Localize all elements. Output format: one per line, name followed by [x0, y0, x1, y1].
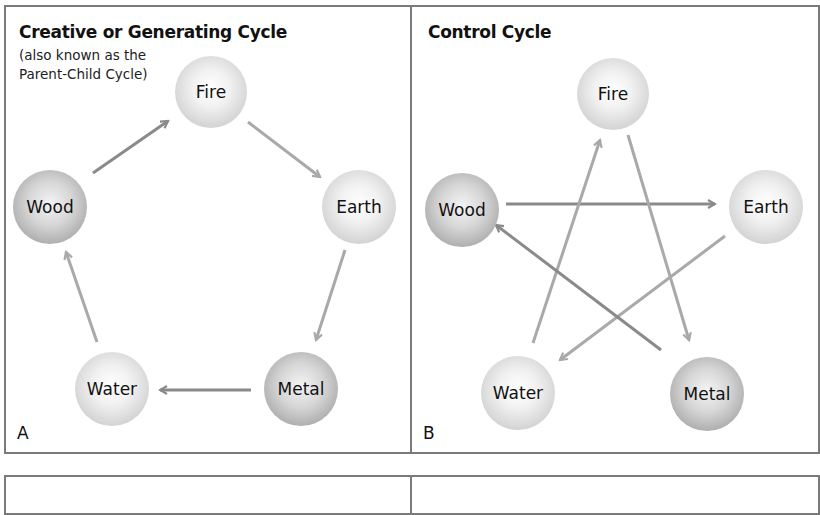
- node-water-b: Water: [481, 356, 555, 430]
- arrow-water-to-fire: [533, 140, 600, 343]
- node-label: Fire: [598, 84, 628, 104]
- node-label: Water: [493, 383, 543, 403]
- node-water-a: Water: [75, 352, 149, 426]
- arrow-earth-to-metal: [316, 250, 345, 340]
- node-label: Water: [87, 379, 137, 399]
- panel-a-arrows: [66, 121, 345, 390]
- node-metal-b: Metal: [670, 357, 744, 431]
- node-label: Earth: [743, 197, 789, 217]
- node-label: Earth: [336, 197, 382, 217]
- node-label: Wood: [26, 197, 73, 217]
- arrow-earth-to-water: [560, 236, 725, 360]
- node-wood-b: Wood: [425, 173, 499, 247]
- node-fire-a: Fire: [175, 56, 247, 128]
- node-earth-a: Earth: [322, 170, 396, 244]
- node-label: Wood: [438, 200, 485, 220]
- node-label: Metal: [278, 379, 325, 399]
- node-wood-a: Wood: [13, 170, 87, 244]
- arrow-wood-to-fire: [93, 121, 168, 173]
- node-label: Metal: [684, 384, 731, 404]
- node-earth-b: Earth: [729, 170, 803, 244]
- panel-b-arrows: [496, 135, 725, 360]
- arrow-fire-to-metal: [628, 135, 689, 340]
- arrow-fire-to-earth: [248, 122, 320, 177]
- node-metal-a: Metal: [264, 352, 338, 426]
- arrow-metal-to-wood: [496, 225, 661, 350]
- node-label: Fire: [196, 82, 226, 102]
- arrow-water-to-wood: [66, 252, 97, 342]
- node-fire-b: Fire: [577, 58, 649, 130]
